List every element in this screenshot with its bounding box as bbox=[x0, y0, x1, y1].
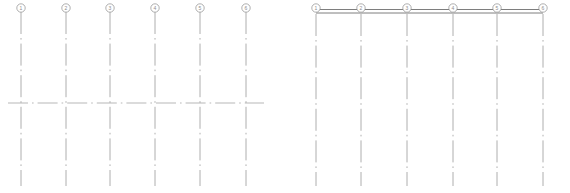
right-vertical-gridlines bbox=[316, 14, 543, 186]
grid-bubble[interactable]: 3 bbox=[403, 4, 411, 12]
grid-bubble[interactable]: 2 bbox=[357, 4, 365, 12]
wall-assembly[interactable] bbox=[316, 10, 543, 14]
grid-bubble[interactable]: 6 bbox=[242, 4, 250, 12]
grid-bubble[interactable]: 5 bbox=[493, 4, 501, 12]
grid-bubble[interactable]: 4 bbox=[449, 4, 457, 12]
grid-bubble-label: 6 bbox=[542, 5, 545, 11]
grid-bubble-label: 4 bbox=[154, 5, 157, 11]
right-grid-fragment: 1 2 3 4 5 bbox=[312, 4, 547, 186]
grid-bubble[interactable]: 3 bbox=[106, 4, 114, 12]
grid-bubble-label: 2 bbox=[65, 5, 68, 11]
grid-bubble[interactable]: 5 bbox=[196, 4, 204, 12]
grid-bubble-label: 1 bbox=[20, 5, 23, 11]
grid-bubble[interactable]: 1 bbox=[17, 4, 25, 12]
grid-bubble[interactable]: 2 bbox=[62, 4, 70, 12]
grid-bubble-label: 1 bbox=[315, 5, 318, 11]
grid-bubble[interactable]: 4 bbox=[151, 4, 159, 12]
grid-bubble-label: 5 bbox=[496, 5, 499, 11]
grid-bubble[interactable]: 1 bbox=[312, 4, 320, 12]
left-vertical-gridlines bbox=[21, 12, 246, 186]
grid-bubble-label: 2 bbox=[360, 5, 363, 11]
drawing-canvas: 1 2 3 4 5 bbox=[0, 0, 570, 193]
grid-plan-svg: 1 2 3 4 5 bbox=[0, 0, 570, 193]
grid-bubble-label: 6 bbox=[245, 5, 248, 11]
right-grid-bubbles: 1 2 3 4 5 bbox=[312, 4, 547, 12]
grid-bubble-label: 5 bbox=[199, 5, 202, 11]
grid-bubble-label: 3 bbox=[406, 5, 409, 11]
left-grid-fragment: 1 2 3 4 5 bbox=[8, 4, 264, 186]
grid-bubble-label: 3 bbox=[109, 5, 112, 11]
grid-bubble-label: 4 bbox=[452, 5, 455, 11]
left-grid-bubbles: 1 2 3 4 5 bbox=[17, 4, 250, 12]
grid-bubble[interactable]: 6 bbox=[539, 4, 547, 12]
